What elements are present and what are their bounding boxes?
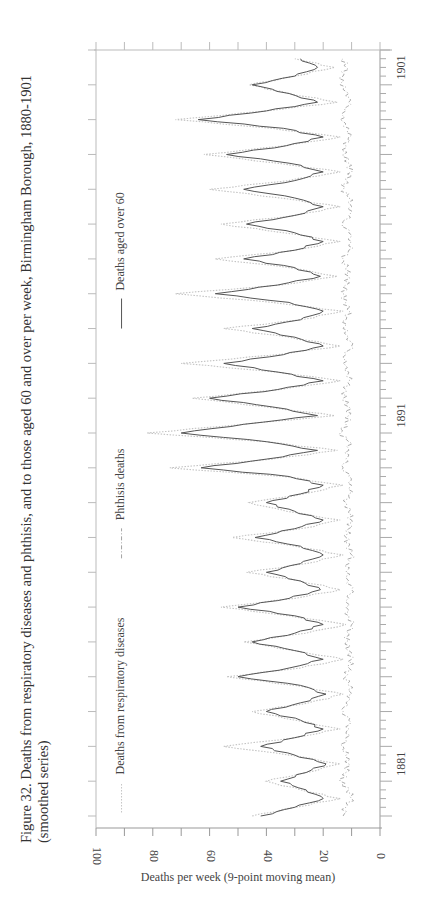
legend-label: Deaths aged over 60 (113, 192, 127, 290)
respiratory-series-line (147, 59, 346, 816)
y-tick-label: 80 (147, 850, 161, 862)
y-tick-label: 60 (204, 850, 218, 862)
rotated-page: Figure 32. Deaths from respiratory disea… (0, 0, 432, 903)
phthisis-series-line (339, 59, 354, 816)
legend-label: Deaths from respiratory diseases (113, 617, 127, 774)
y-tick-label: 40 (261, 850, 275, 862)
legend-label: Phthisis deaths (113, 448, 127, 520)
x-tick-label: 1891 (394, 404, 408, 428)
y-tick-label: 20 (317, 850, 331, 862)
x-tick-label: 1881 (394, 752, 408, 776)
y-tick-label: 100 (90, 847, 104, 865)
x-tick-label: 1901 (394, 55, 408, 79)
y-axis-label: Deaths per week (9-point moving mean) (141, 870, 335, 884)
y-tick-label: 0 (374, 853, 388, 859)
line-chart: 020406080100Deaths per week (9-point mov… (0, 0, 432, 903)
